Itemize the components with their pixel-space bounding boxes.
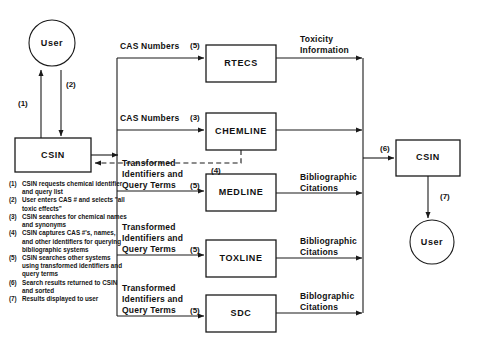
legend-item-number: (3): [9, 213, 22, 229]
node-csin-left: CSIN: [15, 138, 91, 172]
legend-item-text: CSIN searches other systems using transf…: [22, 254, 127, 278]
rtecs-label: RTECS: [224, 58, 258, 68]
step-marker-7: (7): [440, 192, 450, 201]
legend-item-number: (7): [9, 295, 22, 303]
edge-label-tiqt-sdc: Transformed Identifiers and Query Terms …: [122, 283, 200, 315]
legend-item: (7) Results displayed to user: [9, 295, 127, 303]
tiqt-medline-line-3: Query Terms: [122, 180, 176, 190]
cas-numbers-rtecs-step: (5): [190, 41, 200, 50]
legend-item: (4) CSIN captures CAS #'s, names, and ot…: [9, 229, 127, 253]
cas-numbers-rtecs-line-1: CAS Numbers: [120, 41, 179, 51]
csin-right-label: CSIN: [416, 152, 440, 162]
medline-label: MEDLINE: [219, 187, 264, 197]
biblio-sdc-line-2: Citations: [300, 302, 338, 312]
biblio-sdc-line-1: Biblographic: [300, 291, 354, 301]
node-user-top: User: [29, 20, 75, 66]
biblio-medline-line-2: Citations: [300, 183, 338, 193]
node-rtecs: RTECS: [206, 45, 276, 82]
edge-label-cas-numbers-chemline: CAS Numbers (3): [120, 113, 200, 123]
tiqt-medline-step: (5): [190, 181, 200, 190]
node-toxline: TOXLINE: [206, 240, 276, 277]
toxicity-information-line-2: Information: [300, 45, 349, 55]
edge-label-biblio-toxline: Bibliographic Citations: [300, 236, 357, 257]
edge-label-biblio-medline: Bibliographic Citations: [300, 172, 357, 193]
node-chemline: CHEMLINE: [206, 113, 276, 150]
cas-numbers-chemline-line-1: CAS Numbers: [120, 113, 179, 123]
biblio-toxline-line-2: Citations: [300, 247, 338, 257]
legend-item-number: (6): [9, 279, 22, 295]
legend-item: (5) CSIN searches other systems using tr…: [9, 254, 127, 278]
toxline-label: TOXLINE: [219, 253, 262, 263]
tiqt-toxline-line-1: Transformed: [122, 222, 176, 232]
edge-label-biblio-sdc: Biblographic Citations: [300, 291, 354, 312]
tiqt-medline-line-1: Transformed: [122, 158, 176, 168]
tiqt-sdc-line-2: Identifiers and: [122, 294, 183, 304]
legend-item-number: (2): [9, 196, 22, 212]
step-marker-6: (6): [380, 144, 390, 153]
legend-item: (1) CSIN requests chemical identifier an…: [9, 180, 127, 196]
edge-label-toxicity-information: Toxicity Information: [300, 34, 349, 55]
csin-left-label: CSIN: [41, 150, 65, 160]
legend-item-number: (5): [9, 254, 22, 278]
node-sdc: SDC: [206, 295, 276, 332]
legend-item-number: (4): [9, 229, 22, 253]
step-marker-1: (1): [18, 99, 28, 108]
legend-item-text: Search results returned to CSIN and sort…: [22, 279, 127, 295]
biblio-medline-line-1: Bibliographic: [300, 172, 357, 182]
legend-item: (6) Search results returned to CSIN and …: [9, 279, 127, 295]
edge-label-cas-numbers-rtecs: CAS Numbers (5): [120, 41, 200, 51]
tiqt-sdc-line-1: Transformed: [122, 283, 176, 293]
legend-item-text: CSIN captures CAS #'s, names, and other …: [22, 229, 127, 253]
tiqt-sdc-step: (5): [190, 306, 200, 315]
legend-item-number: (1): [9, 180, 22, 196]
tiqt-sdc-line-3: Query Terms: [122, 305, 176, 315]
node-csin-right: CSIN: [396, 140, 460, 176]
node-user-right: User: [410, 220, 454, 264]
sdc-label: SDC: [231, 308, 252, 318]
legend-item-text: Results displayed to user: [22, 295, 127, 303]
diagram-canvas: User CSIN RTECS CHEMLINE MEDLINE TOXLINE…: [0, 0, 477, 347]
legend-item: (3) CSIN searches for chemical names and…: [9, 213, 127, 229]
tiqt-toxline-line-3: Query Terms: [122, 244, 176, 254]
chemline-label: CHEMLINE: [215, 126, 267, 136]
biblio-toxline-line-1: Bibliographic: [300, 236, 357, 246]
tiqt-toxline-line-2: Identifiers and: [122, 233, 183, 243]
tiqt-toxline-step: (5): [190, 245, 200, 254]
legend-item-text: User enters CAS # and selects "all toxic…: [22, 196, 127, 212]
tiqt-medline-line-2: Identifiers and: [122, 169, 183, 179]
legend-item-text: CSIN searches for chemical names and syn…: [22, 213, 127, 229]
user-right-label: User: [421, 237, 443, 247]
legend-item: (2) User enters CAS # and selects "all t…: [9, 196, 127, 212]
legend: (1) CSIN requests chemical identifier an…: [9, 180, 127, 303]
toxicity-information-line-1: Toxicity: [300, 34, 333, 44]
legend-item-text: CSIN requests chemical identifier and qu…: [22, 180, 127, 196]
edge-label-tiqt-toxline: Transformed Identifiers and Query Terms …: [122, 222, 200, 254]
cas-numbers-chemline-step: (3): [190, 113, 200, 122]
step-marker-2: (2): [66, 80, 76, 89]
node-medline: MEDLINE: [206, 174, 276, 211]
user-top-label: User: [41, 38, 63, 48]
step-marker-4: (4): [211, 166, 221, 175]
